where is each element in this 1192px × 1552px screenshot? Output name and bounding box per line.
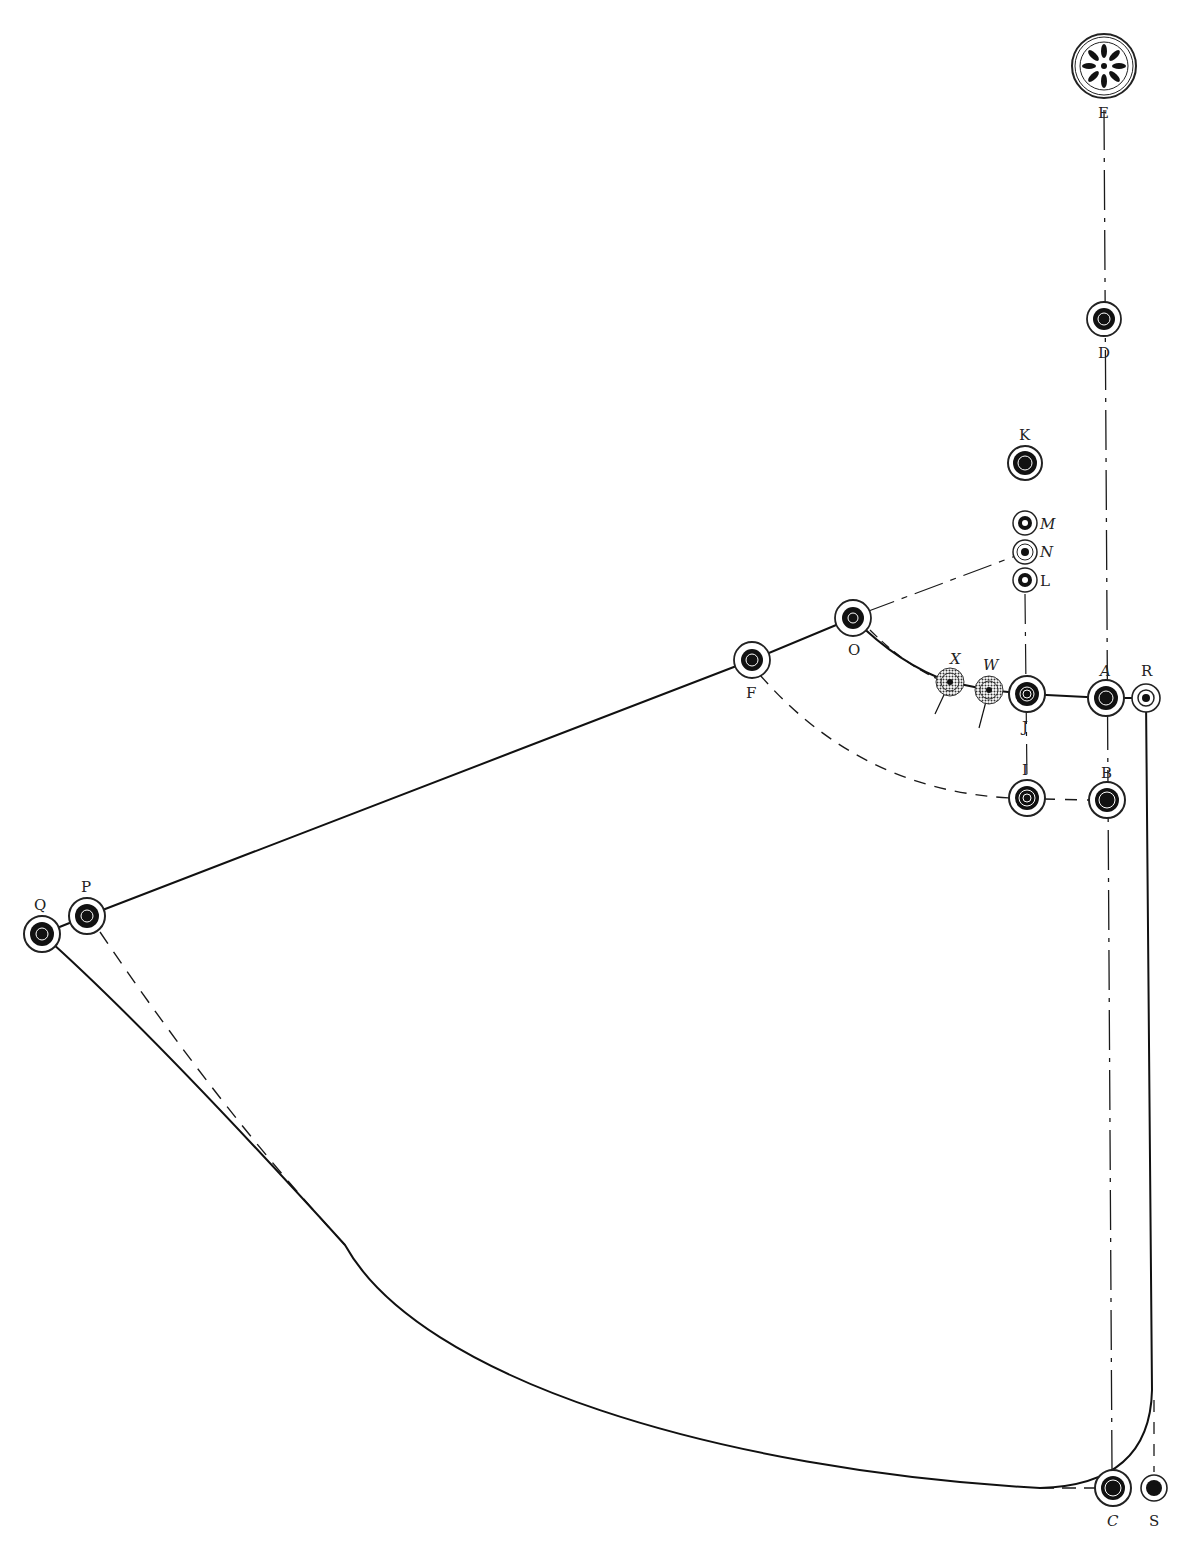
- label-k: K: [1019, 426, 1031, 444]
- joint-s: [1141, 1475, 1167, 1501]
- joints: [24, 34, 1167, 1506]
- label-n: N: [1039, 543, 1054, 561]
- joint-c: [1095, 1470, 1131, 1506]
- joint-r: [1132, 684, 1160, 712]
- joint-f: [734, 642, 770, 678]
- construction-lines: [100, 110, 1154, 1488]
- mechanism-diagram: E D K M N L O F X W J A R I B P Q C S: [0, 0, 1192, 1552]
- joint-l: [1013, 568, 1037, 592]
- linkage-lines: [42, 618, 1152, 1488]
- joint-k: [1008, 446, 1042, 480]
- joint-e: [1072, 34, 1136, 98]
- labels: E D K M N L O F X W J A R I B P Q C S: [34, 104, 1159, 1530]
- label-b: B: [1101, 764, 1112, 782]
- label-e: E: [1098, 104, 1109, 122]
- label-f: F: [746, 684, 756, 702]
- label-p: P: [81, 878, 91, 896]
- line-i-b: [1043, 799, 1090, 800]
- joint-j: [1009, 676, 1045, 712]
- joint-w: [975, 676, 1003, 704]
- label-i: I: [1022, 761, 1028, 779]
- line-o-n: [866, 555, 1018, 612]
- link-q-p-f-o: [42, 618, 853, 934]
- joint-q: [24, 916, 60, 952]
- label-a: A: [1098, 662, 1111, 680]
- joint-x: [936, 668, 964, 696]
- joint-i: [1009, 780, 1045, 816]
- label-l: L: [1040, 572, 1050, 590]
- rosette-icon: [1082, 44, 1126, 88]
- dashed-curve-p: [100, 932, 345, 1245]
- label-r: R: [1141, 662, 1153, 680]
- label-d: D: [1098, 344, 1110, 362]
- label-w: W: [983, 656, 1000, 674]
- arc-f-i: [760, 675, 1010, 798]
- joint-o: [835, 600, 871, 636]
- label-o: O: [848, 641, 860, 659]
- joint-b: [1089, 782, 1125, 818]
- label-c: C: [1107, 1512, 1119, 1530]
- joint-n: [1013, 540, 1037, 564]
- dashed-companion-o-x: [870, 630, 940, 680]
- joint-p: [69, 898, 105, 934]
- label-s: S: [1149, 1512, 1159, 1530]
- label-q: Q: [34, 896, 46, 914]
- label-x: X: [949, 650, 962, 668]
- joint-a: [1088, 680, 1124, 716]
- label-m: M: [1039, 515, 1056, 533]
- joint-d: [1087, 302, 1121, 336]
- joint-m: [1013, 511, 1037, 535]
- link-r-c-q-curve: [42, 698, 1152, 1488]
- label-j: J: [1020, 718, 1028, 736]
